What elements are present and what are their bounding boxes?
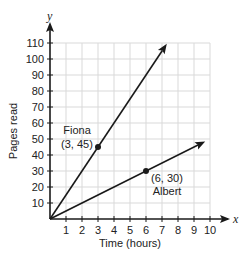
x-tick-label: 9	[191, 224, 197, 236]
tick-labels: 12345678910102030405060708090100110	[26, 37, 216, 236]
series-fiona: Fiona(3, 45)	[50, 44, 167, 219]
y-tick-label: 90	[32, 69, 44, 81]
x-tick-label: 2	[79, 224, 85, 236]
y-tick-label: 80	[32, 85, 44, 97]
x-tick-label: 6	[143, 224, 149, 236]
x-tick-label: 10	[204, 224, 216, 236]
y-tick-label: 20	[32, 181, 44, 193]
line-chart: 12345678910102030405060708090100110 Fion…	[0, 0, 249, 263]
y-tick-label: 40	[32, 149, 44, 161]
y-tick-label: 100	[26, 53, 44, 65]
x-axis-letter: x	[232, 212, 239, 226]
x-tick-label: 7	[159, 224, 165, 236]
series-albert: (6, 30)Albert	[50, 141, 205, 219]
x-tick-label: 4	[111, 224, 117, 236]
data-series: Fiona(3, 45)(6, 30)Albert	[50, 44, 205, 219]
x-tick-label: 1	[63, 224, 69, 236]
x-axis-title: Time (hours)	[99, 237, 161, 249]
data-point	[95, 144, 101, 150]
y-axis-letter: y	[46, 9, 53, 23]
y-tick-label: 60	[32, 117, 44, 129]
x-tick-label: 3	[95, 224, 101, 236]
y-tick-label: 70	[32, 101, 44, 113]
y-tick-label: 10	[32, 197, 44, 209]
y-tick-label: 30	[32, 165, 44, 177]
data-point	[143, 168, 149, 174]
y-tick-label: 110	[26, 37, 44, 49]
series-name-label: Fiona	[63, 124, 91, 136]
series-name-label: Albert	[153, 185, 182, 197]
x-tick-label: 8	[175, 224, 181, 236]
point-coordinate-label: (3, 45)	[61, 138, 93, 150]
y-axis-title: Pages read	[7, 103, 19, 159]
x-tick-label: 5	[127, 224, 133, 236]
y-tick-label: 50	[32, 133, 44, 145]
point-coordinate-label: (6, 30)	[151, 172, 183, 184]
